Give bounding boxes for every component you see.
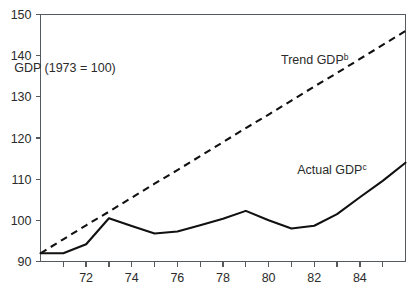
gdp-line-chart: 90100110120130140150 72747678808284 GDP … — [0, 0, 420, 289]
y-tick-label: 100 — [11, 214, 32, 228]
note-label-text: GDP (1973 = 100) — [14, 61, 116, 75]
chart-background — [0, 0, 420, 289]
y-tick-label: 120 — [11, 132, 32, 146]
y-tick-label: 130 — [11, 90, 32, 104]
y-tick-label: 90 — [18, 255, 32, 269]
x-tick-label: 72 — [79, 271, 93, 285]
y-tick-label: 150 — [11, 8, 32, 22]
x-tick-label: 80 — [262, 271, 276, 285]
actual-label: Actual GDPc — [297, 162, 367, 177]
actual-label-text: Actual GDP — [297, 163, 362, 177]
trend-label-text: Trend GDP — [281, 53, 344, 67]
note-label: GDP (1973 = 100) — [14, 61, 116, 75]
trend-label: Trend GDPb — [281, 52, 349, 67]
y-tick-label: 110 — [12, 173, 32, 187]
trend-label-superscript: b — [344, 52, 349, 62]
x-tick-label: 76 — [170, 271, 184, 285]
x-tick-label: 84 — [353, 271, 367, 285]
chart-figure: 90100110120130140150 72747678808284 GDP … — [0, 0, 420, 289]
x-tick-label: 82 — [307, 271, 321, 285]
x-tick-label: 78 — [216, 271, 230, 285]
x-tick-label: 74 — [125, 271, 139, 285]
